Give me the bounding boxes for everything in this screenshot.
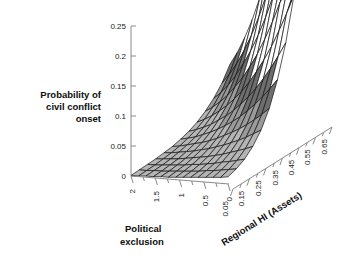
x-tick-label: 2 xyxy=(128,188,137,193)
x-tick-major xyxy=(204,182,206,189)
z-axis-title-line-3: onset xyxy=(76,113,102,124)
y-tick-label: 0.35 xyxy=(271,169,280,185)
y-tick-label: 0.25 xyxy=(254,180,263,196)
z-axis-title-line-2: civil conflict xyxy=(46,101,102,112)
x-tick-major xyxy=(180,180,182,187)
z-axis-tick-labels: 00.050.10.150.20.25 xyxy=(110,22,126,181)
x-tick-major xyxy=(155,178,157,185)
y-tick-label: 0.15 xyxy=(238,190,247,206)
x-tick-minor xyxy=(143,177,144,181)
x-axis-title-line-1: Political xyxy=(125,223,161,234)
x-tick-major xyxy=(131,176,133,183)
z-axis-title: Probability of civil conflict onset xyxy=(40,89,102,124)
x-axis: 21.510.50 Political exclusion xyxy=(120,176,234,247)
y-tick-label: 0.05 xyxy=(221,200,230,216)
x-tick-label: 1.5 xyxy=(152,190,161,202)
z-axis-ticks xyxy=(131,26,136,176)
x-tick-minor xyxy=(216,183,217,187)
z-tick-label: 0.2 xyxy=(115,52,127,61)
x-tick-label: 0 xyxy=(225,196,234,201)
y-tick-major xyxy=(230,189,233,196)
x-axis-tick-labels: 21.510.50 xyxy=(128,188,234,206)
y-tick-label: 0.55 xyxy=(304,149,313,165)
x-axis-title-line-2: exclusion xyxy=(120,236,164,247)
z-tick-label: 0.05 xyxy=(110,142,126,151)
x-axis-ticks xyxy=(131,176,230,191)
x-tick-major xyxy=(228,184,230,191)
x-tick-minor xyxy=(167,179,168,183)
surface-plot-figure: 00.050.10.150.20.25 Probability of civil… xyxy=(0,0,356,263)
z-tick-label: 0 xyxy=(122,172,127,181)
x-tick-minor xyxy=(192,181,193,185)
z-tick-label: 0.25 xyxy=(110,22,126,31)
y-tick-label: 0.45 xyxy=(287,159,296,175)
y-tick-label: 0.65 xyxy=(320,138,329,154)
x-tick-label: 0.5 xyxy=(201,194,210,206)
z-tick-label: 0.15 xyxy=(110,82,126,91)
z-axis-title-line-1: Probability of xyxy=(40,89,102,100)
x-tick-label: 1 xyxy=(177,192,186,197)
z-axis: 00.050.10.150.20.25 xyxy=(110,22,136,181)
z-tick-label: 0.1 xyxy=(115,112,127,121)
